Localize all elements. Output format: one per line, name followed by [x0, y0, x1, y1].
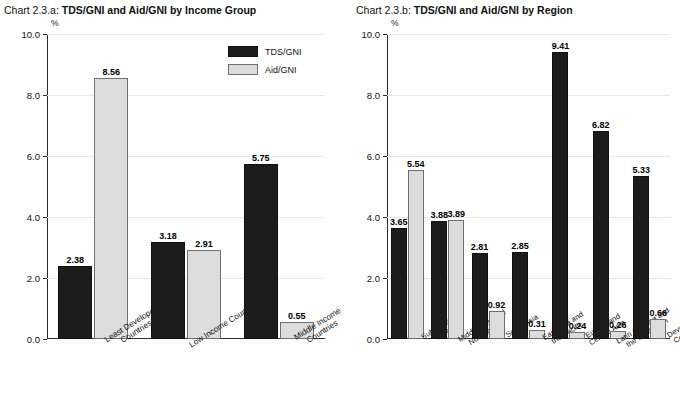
legend-item-aid: Aid/GNI [228, 64, 302, 75]
y-axis-tick-label: 6.0 [27, 151, 40, 162]
bar-value-label: 0.66 [650, 308, 668, 318]
y-axis-tick [43, 34, 47, 35]
chart-a-unit-label: % [51, 18, 59, 28]
y-axis-tick-label: 10.0 [22, 29, 41, 40]
legend-swatch-tds-icon [228, 46, 258, 57]
bar-value-label: 5.33 [633, 165, 651, 175]
bar-value-label: 5.75 [252, 153, 270, 163]
y-axis-tick [383, 156, 387, 157]
y-axis-tick-label: 8.0 [367, 90, 380, 101]
bar-value-label: 0.24 [569, 321, 587, 331]
gridline [47, 217, 325, 218]
y-axis-tick-label: 4.0 [27, 212, 40, 223]
gridline [387, 95, 670, 96]
y-axis-tick [43, 278, 47, 279]
bar-value-label: 0.31 [528, 319, 546, 329]
bar-value-label: 3.18 [159, 231, 177, 241]
bar-tds: 5.75 [244, 164, 278, 339]
y-axis-tick [43, 339, 47, 340]
chart-b-id: Chart 2.3.b: [356, 4, 411, 16]
legend-label-aid: Aid/GNI [265, 65, 297, 75]
bar-value-label: 3.88 [430, 210, 448, 220]
bar-aid: 8.56 [94, 78, 128, 339]
bar-value-label: 8.56 [103, 67, 121, 77]
bar-value-label: 0.92 [488, 300, 506, 310]
y-axis-tick [43, 156, 47, 157]
gridline [47, 95, 325, 96]
bar-value-label: 3.89 [447, 209, 465, 219]
chart-a-id: Chart 2.3.a: [4, 4, 59, 16]
chart-b-unit-label: % [391, 18, 399, 28]
chart-b-plot-area: % 10.08.06.04.02.00.03.655.54Sub-Saharan… [387, 34, 670, 339]
gridline [47, 156, 325, 157]
bar-value-label: 0.26 [609, 320, 627, 330]
y-axis-tick [383, 95, 387, 96]
bar-tds: 3.88 [431, 221, 447, 339]
y-axis-tick-label: 8.0 [27, 90, 40, 101]
bar-aid: 5.54 [408, 170, 424, 339]
bar-value-label: 3.65 [390, 217, 408, 227]
bar-value-label: 6.82 [592, 120, 610, 130]
legend-swatch-aid-icon [228, 64, 258, 75]
bar-value-label: 2.85 [511, 241, 529, 251]
chart-page: Percentage of GNI (2005) Chart 2.3.a: TD… [0, 0, 680, 408]
gridline [387, 34, 670, 35]
y-axis-tick-label: 2.0 [27, 273, 40, 284]
bar-tds: 3.65 [391, 228, 407, 339]
bar-tds: 2.85 [512, 252, 528, 339]
y-axis-tick-label: 0.0 [367, 334, 380, 345]
legend-label-tds: TDS/GNI [265, 47, 302, 57]
bar-value-label: 0.55 [288, 311, 306, 321]
chart-b-title-text: TDS/GNI and Aid/GNI by Region [414, 4, 573, 16]
bar-tds: 2.38 [58, 266, 92, 339]
bar-tds: 2.81 [472, 253, 488, 339]
y-axis-tick [383, 34, 387, 35]
y-axis-tick-label: 2.0 [367, 273, 380, 284]
gridline [387, 156, 670, 157]
bar-tds: 6.82 [593, 131, 609, 339]
y-axis-tick [383, 339, 387, 340]
chart-panel-b: Chart 2.3.b: TDS/GNI and Aid/GNI by Regi… [340, 0, 680, 408]
bar-value-label: 2.38 [67, 255, 85, 265]
chart-a-y-axis [47, 34, 48, 339]
y-axis-tick-label: 10.0 [362, 29, 381, 40]
bar-tds: 9.41 [552, 52, 568, 339]
bar-aid: 3.89 [448, 220, 464, 339]
chart-a-title-text: TDS/GNI and Aid/GNI by Income Group [62, 4, 256, 16]
y-axis-tick-label: 4.0 [367, 212, 380, 223]
y-axis-tick [43, 217, 47, 218]
chart-a-title: Chart 2.3.a: TDS/GNI and Aid/GNI by Inco… [4, 4, 256, 16]
gridline [47, 34, 325, 35]
y-axis-tick [383, 217, 387, 218]
bar-value-label: 5.54 [407, 159, 425, 169]
chart-a-legend: TDS/GNI Aid/GNI [228, 46, 302, 82]
bar-value-label: 2.81 [471, 242, 489, 252]
bar-value-label: 9.41 [552, 41, 570, 51]
bar-tds: 5.33 [633, 176, 649, 339]
gridline [387, 278, 670, 279]
y-axis-tick [383, 278, 387, 279]
y-axis-tick-label: 0.0 [27, 334, 40, 345]
chart-panel-a: Chart 2.3.a: TDS/GNI and Aid/GNI by Inco… [0, 0, 340, 408]
y-axis-tick [43, 95, 47, 96]
y-axis-tick-label: 6.0 [367, 151, 380, 162]
legend-item-tds: TDS/GNI [228, 46, 302, 57]
bar-value-label: 2.91 [195, 239, 213, 249]
chart-b-title: Chart 2.3.b: TDS/GNI and Aid/GNI by Regi… [356, 4, 573, 16]
chart-b-y-axis [387, 34, 388, 339]
bar-tds: 3.18 [151, 242, 185, 339]
